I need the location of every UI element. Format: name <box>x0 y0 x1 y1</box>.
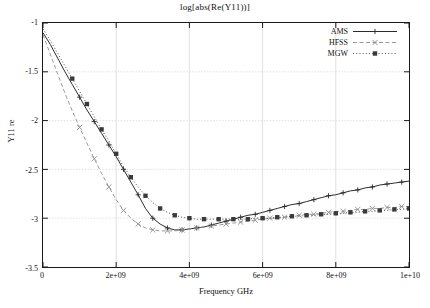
x-axis-label: Frequency GHz <box>42 286 410 296</box>
y-tick-label: -1 <box>0 18 42 27</box>
chart-title: log[abs(Re(Y11))] <box>0 2 430 12</box>
x-tick-label: 1e+10 <box>400 271 420 280</box>
y-tick-label: -1.5 <box>0 67 42 76</box>
legend-swatch <box>352 48 406 59</box>
legend-item-ams: AMS <box>318 26 406 37</box>
x-tick-label: 6e+09 <box>253 271 273 280</box>
x-tick-label: 2e+09 <box>106 271 126 280</box>
legend-label: AMS <box>318 27 352 36</box>
chart-root: log[abs(Re(Y11))] -1-1.5-2-2.5-3-3.5 02e… <box>0 0 430 308</box>
legend-swatch <box>352 26 406 37</box>
data-layer <box>43 23 409 267</box>
y-tick-label: -3 <box>0 214 42 223</box>
y-tick-label: -2.5 <box>0 165 42 174</box>
legend-item-hfss: HFSS <box>318 37 406 48</box>
y-axis-label: Y11 re <box>6 96 16 166</box>
legend-swatch <box>352 37 406 48</box>
legend-label: HFSS <box>318 38 352 47</box>
x-tick-label: 4e+09 <box>179 271 199 280</box>
legend-label: MGW <box>318 49 352 58</box>
chart-legend: AMSHFSSMGW <box>318 26 406 59</box>
x-tick-label: 8e+09 <box>326 271 346 280</box>
legend-item-mgw: MGW <box>318 48 406 59</box>
y-tick-label: -3.5 <box>0 264 42 273</box>
x-tick-label: 0 <box>40 271 44 280</box>
